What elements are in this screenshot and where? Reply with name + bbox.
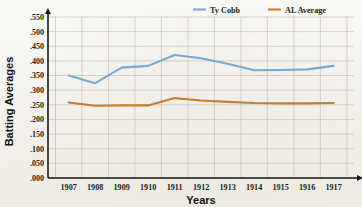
y-tick-label: .300 [30,86,44,95]
x-tick-label: 1912 [193,183,209,192]
grid-vertical [55,17,346,178]
x-tick-label: 1916 [299,183,315,192]
y-axis-arrow [45,8,51,14]
y-tick-label: .050 [30,159,44,168]
y-tick-label: .550 [30,13,44,22]
chart-canvas: .000.050.100.150.200.250.300.350.400.450… [0,0,362,207]
legend-label-ty-cobb: Ty Cobb [210,6,241,15]
axis-lines [45,8,362,181]
legend-label-al-average: AL Average [285,6,326,15]
y-tick-label: .500 [30,28,44,37]
x-tick-label: 1910 [140,183,156,192]
x-tick-label: 1914 [246,183,262,192]
y-tick-label: .000 [30,174,44,183]
x-axis-arrow [357,175,362,181]
y-axis-ticks: .000.050.100.150.200.250.300.350.400.450… [30,13,44,183]
y-axis-title: Batting Averages [3,57,15,147]
y-tick-label: .150 [30,130,44,139]
x-tick-label: 1915 [272,183,288,192]
line-chart: .000.050.100.150.200.250.300.350.400.450… [0,0,362,207]
chart-legend: Ty CobbAL Average [193,6,326,15]
x-tick-label: 1907 [60,183,76,192]
x-tick-label: 1909 [113,183,129,192]
y-tick-label: .100 [30,145,44,154]
x-axis-ticks: 1907190819091910191119121913191419151916… [60,183,341,192]
y-tick-label: .450 [30,42,44,51]
x-tick-label: 1917 [325,183,341,192]
x-tick-label: 1908 [87,183,103,192]
y-tick-label: .250 [30,101,44,110]
grid-horizontal [48,17,354,178]
x-axis-title: Years [186,194,215,206]
x-tick-label: 1913 [219,183,235,192]
y-tick-label: .350 [30,71,44,80]
y-tick-label: .200 [30,115,44,124]
x-tick-label: 1911 [167,183,183,192]
y-tick-label: .400 [30,57,44,66]
